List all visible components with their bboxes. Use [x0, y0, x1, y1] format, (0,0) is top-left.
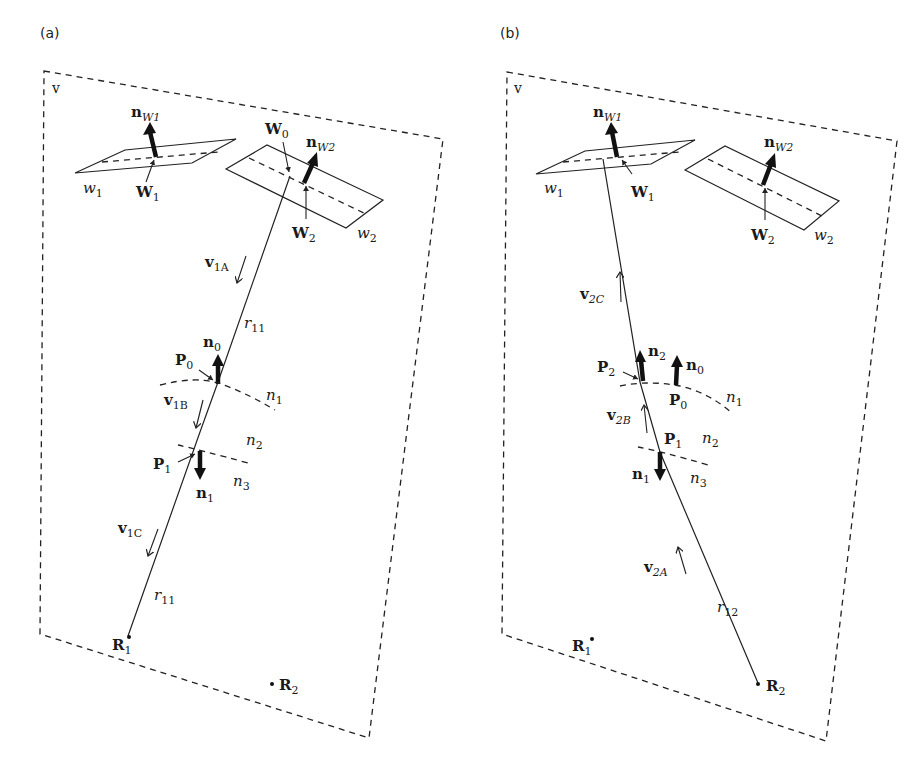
arrow-head-icon — [654, 469, 666, 481]
velocity-v1b: v1B — [163, 391, 203, 428]
label-medium-n1: n1 — [266, 386, 283, 407]
label-normal-nw2: nW2 — [764, 133, 793, 154]
figure-canvas: (a) v nW1 w1 W1 nW2 W2 w2 — [0, 0, 919, 768]
label-plane-w2: w2 — [814, 226, 834, 247]
interface-point-p1: n1 — [632, 452, 666, 486]
arrow-head-icon — [635, 350, 646, 362]
label-plane-w1: w1 — [83, 179, 103, 200]
plane-w2: nW2 W2 w2 — [226, 133, 383, 245]
velocity-v2a: v2A — [643, 547, 686, 579]
receiver-r2-dot — [270, 682, 274, 686]
ray-r11 — [128, 176, 290, 636]
svg-text:P0: P0 — [175, 351, 193, 372]
velocity-v1c: v1C — [117, 519, 158, 556]
label-medium-n3: n3 — [690, 469, 707, 490]
region-label: v — [51, 80, 60, 96]
interface-n2-n3 — [178, 445, 248, 463]
region-label: v — [513, 80, 522, 96]
svg-text:P0: P0 — [669, 391, 687, 412]
label-medium-n1: n1 — [726, 388, 743, 409]
label-point-w0: W0 — [264, 120, 289, 141]
arrow-down-icon — [148, 529, 158, 556]
interface-point-p2: n2 P2 — [597, 342, 666, 381]
plane-w1: nW1 w1 W1 — [536, 103, 695, 204]
svg-text:n2: n2 — [648, 342, 666, 363]
label-receiver-r2: R2 — [279, 676, 298, 697]
label-ray-r11-upper: r11 — [244, 314, 265, 335]
velocity-v2c: v2C — [579, 272, 621, 306]
svg-text:P2: P2 — [597, 358, 615, 379]
arrow-head-icon — [671, 355, 683, 367]
label-normal-nw2: nW2 — [306, 133, 335, 154]
label-ray-r11-lower: r11 — [154, 586, 175, 607]
arrow-up-icon — [678, 547, 686, 574]
label-normal-nw1: nW1 — [131, 103, 160, 124]
svg-text:n1: n1 — [632, 465, 650, 486]
plane-w2: nW2 W2 w2 — [685, 133, 839, 247]
arrow-head-icon — [212, 354, 224, 366]
panel-b: (b) v nW1 w1 W1 nW2 W2 w2 — [500, 25, 897, 741]
receiver-r2-dot — [756, 682, 760, 686]
arrow-down-icon — [237, 256, 246, 283]
panel-b-tag: (b) — [500, 25, 520, 41]
label-plane-w2: w2 — [357, 224, 377, 245]
arrow-down-icon — [196, 400, 203, 428]
svg-text:n0: n0 — [203, 333, 221, 354]
receiver-r1-dot — [590, 637, 594, 641]
label-ray-r12: r12 — [717, 598, 738, 619]
interface-point-p0: n0 P0 — [669, 355, 704, 412]
label-point-w2: W2 — [291, 224, 316, 245]
arrow-up-icon — [644, 405, 647, 433]
interface-point-p0: n0 P0 — [175, 333, 224, 384]
receiver-r1-dot — [127, 635, 131, 639]
svg-text:v1B: v1B — [163, 391, 188, 412]
label-medium-n3: n3 — [233, 472, 250, 493]
svg-text:v2B: v2B — [606, 406, 631, 427]
svg-text:v1C: v1C — [117, 519, 142, 540]
label-point-w1: W1 — [630, 183, 655, 204]
velocity-v1a: v1A — [204, 253, 246, 283]
label-receiver-r1: R1 — [112, 636, 131, 657]
label-plane-w1: w1 — [544, 179, 564, 200]
arrow-head-icon — [194, 468, 206, 480]
velocity-v2b: v2B — [606, 405, 647, 433]
label-receiver-r1: R1 — [572, 637, 591, 658]
label-receiver-r2: R2 — [766, 677, 785, 698]
svg-text:v2A: v2A — [643, 558, 668, 579]
panel-a: (a) v nW1 w1 W1 nW2 W2 w2 — [40, 25, 443, 738]
label-point-w2: W2 — [750, 226, 775, 247]
label-normal-nw1: nW1 — [593, 103, 622, 124]
plane-w1: nW1 w1 W1 — [75, 103, 236, 204]
svg-text:v2C: v2C — [579, 285, 605, 306]
label-medium-n2: n2 — [702, 429, 719, 450]
arrow-up-icon — [620, 272, 621, 302]
label-point-w1: W1 — [135, 183, 160, 204]
svg-text:P1: P1 — [153, 455, 171, 476]
svg-text:n0: n0 — [686, 356, 704, 377]
svg-text:v1A: v1A — [204, 253, 230, 274]
panel-a-tag: (a) — [40, 25, 60, 41]
label-medium-n2: n2 — [246, 431, 263, 452]
svg-text:n1: n1 — [196, 484, 214, 505]
label-point-p1: P1 — [664, 430, 682, 451]
interface-n2-n3 — [638, 447, 708, 465]
